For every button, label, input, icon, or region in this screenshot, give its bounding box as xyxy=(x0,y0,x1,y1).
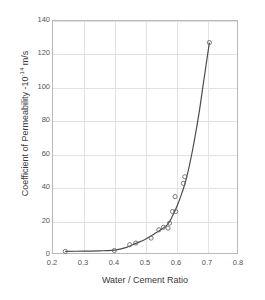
data-point-marker xyxy=(149,236,153,240)
x-axis-tick-label: 0.8 xyxy=(223,258,253,267)
y-axis-tick-label: 0 xyxy=(24,250,50,258)
x-axis-tick-label: 0.2 xyxy=(37,258,67,267)
y-axis-tick-labels: 020406080100120140 xyxy=(20,20,50,254)
x-axis-title: Water / Cement Ratio xyxy=(52,275,238,285)
data-series-svg xyxy=(53,21,237,253)
plot-area xyxy=(52,20,238,254)
y-axis-tick-label: 120 xyxy=(24,49,50,57)
data-line xyxy=(65,43,209,252)
y-axis-tick-label: 140 xyxy=(24,16,50,24)
chart-figure: Coefficient of Permeability -10-14 m/s 0… xyxy=(0,0,265,300)
x-axis-tick-label: 0.3 xyxy=(68,258,98,267)
y-axis-tick-label: 20 xyxy=(24,217,50,225)
x-axis-tick-labels: 0.20.30.40.50.60.70.8 xyxy=(52,258,238,270)
x-axis-tick-label: 0.5 xyxy=(130,258,160,267)
y-axis-tick-label: 100 xyxy=(24,83,50,91)
y-axis-tick-label: 60 xyxy=(24,150,50,158)
x-axis-tick-label: 0.7 xyxy=(192,258,222,267)
y-axis-tick-label: 40 xyxy=(24,183,50,191)
x-axis-tick-label: 0.6 xyxy=(161,258,191,267)
y-axis-tick-label: 80 xyxy=(24,116,50,124)
data-point-marker xyxy=(166,226,170,230)
x-axis-tick-label: 0.4 xyxy=(99,258,129,267)
data-point-marker xyxy=(173,195,177,199)
